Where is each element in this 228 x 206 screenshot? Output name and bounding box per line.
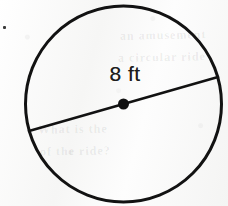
- circle-diagram-svg: [0, 0, 228, 206]
- stray-scan-speck: [3, 26, 6, 29]
- circle-diagram-figure: an amusement a circular ride What is the…: [0, 0, 228, 206]
- center-point-dot: [118, 99, 129, 110]
- diameter-measurement-label: 8 ft: [99, 62, 151, 86]
